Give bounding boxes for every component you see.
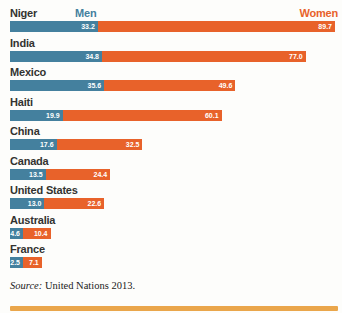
women-value-label: 32.5: [126, 141, 140, 148]
women-value-label: 89.7: [318, 23, 332, 30]
accent-strip: [10, 306, 338, 311]
women-value-label: 49.6: [219, 82, 233, 89]
bar-track: 13.5 24.4: [10, 169, 338, 180]
stacked-bar-chart: Men Women Niger 33.2 89.7 India 34.8 77.…: [10, 7, 338, 268]
bar-track: 19.9 60.1: [10, 110, 338, 121]
legend-men-label: Men: [75, 7, 96, 20]
legend-women-label: Women: [299, 7, 338, 20]
country-label: Australia: [10, 214, 338, 227]
country-label: Canada: [10, 155, 338, 168]
men-bar-segment: 2.5: [10, 257, 23, 268]
bar-row: China 17.6 32.5: [10, 125, 338, 150]
bar-row: United States 13.0 22.6: [10, 184, 338, 209]
men-bar-segment: 34.8: [10, 51, 102, 62]
women-bar-segment: 60.1: [63, 110, 222, 121]
country-label: India: [10, 37, 338, 50]
women-value-label: 60.1: [205, 112, 219, 119]
men-value-label: 35.6: [88, 82, 102, 89]
women-bar-segment: 10.4: [23, 228, 51, 239]
men-value-label: 17.6: [40, 141, 54, 148]
country-label: United States: [10, 184, 338, 197]
women-bar-segment: 7.1: [23, 257, 42, 268]
country-label: Niger: [10, 7, 338, 20]
bar-track: 33.2 89.7: [10, 21, 338, 32]
country-label: France: [10, 243, 338, 256]
men-bar-segment: 4.6: [10, 228, 23, 239]
women-bar-segment: 77.0: [102, 51, 306, 62]
men-bar-segment: 13.0: [10, 198, 44, 209]
men-value-label: 13.5: [29, 171, 43, 178]
men-value-label: 4.6: [10, 230, 20, 237]
women-bar-segment: 22.6: [44, 198, 104, 209]
men-bar-segment: 33.2: [10, 21, 98, 32]
bar-track: 35.6 49.6: [10, 80, 338, 91]
country-label: China: [10, 125, 338, 138]
source-prefix: Source:: [10, 280, 42, 291]
women-bar-segment: 24.4: [46, 169, 111, 180]
bar-track: 13.0 22.6: [10, 198, 338, 209]
bar-track: 4.6 10.4: [10, 228, 338, 239]
bar-track: 17.6 32.5: [10, 139, 338, 150]
bar-track: 34.8 77.0: [10, 51, 338, 62]
source-text: United Nations 2013.: [42, 280, 135, 291]
country-label: Haiti: [10, 96, 338, 109]
chart-rows: Niger 33.2 89.7 India 34.8 77.0 Mexico 3…: [10, 7, 338, 268]
men-value-label: 19.9: [46, 112, 60, 119]
bar-row: Canada 13.5 24.4: [10, 155, 338, 180]
women-value-label: 77.0: [289, 53, 303, 60]
men-bar-segment: 19.9: [10, 110, 63, 121]
chart-page: Men Women Niger 33.2 89.7 India 34.8 77.…: [0, 0, 342, 313]
bar-row: India 34.8 77.0: [10, 37, 338, 62]
men-value-label: 2.5: [10, 259, 20, 266]
source-note: Source: United Nations 2013.: [10, 280, 335, 291]
bar-row: Haiti 19.9 60.1: [10, 96, 338, 121]
men-value-label: 34.8: [85, 53, 99, 60]
women-value-label: 10.4: [34, 230, 48, 237]
country-label: Mexico: [10, 66, 338, 79]
bar-row: France 2.5 7.1: [10, 243, 338, 268]
women-value-label: 7.1: [29, 259, 39, 266]
men-value-label: 33.2: [81, 23, 95, 30]
bar-row: Australia 4.6 10.4: [10, 214, 338, 239]
women-value-label: 22.6: [88, 200, 102, 207]
men-bar-segment: 13.5: [10, 169, 46, 180]
bar-row: Niger 33.2 89.7: [10, 7, 338, 32]
bar-row: Mexico 35.6 49.6: [10, 66, 338, 91]
women-bar-segment: 89.7: [98, 21, 335, 32]
men-bar-segment: 35.6: [10, 80, 104, 91]
women-bar-segment: 49.6: [104, 80, 235, 91]
men-value-label: 13.0: [28, 200, 42, 207]
bar-track: 2.5 7.1: [10, 257, 338, 268]
men-bar-segment: 17.6: [10, 139, 57, 150]
women-value-label: 24.4: [94, 171, 108, 178]
women-bar-segment: 32.5: [57, 139, 143, 150]
